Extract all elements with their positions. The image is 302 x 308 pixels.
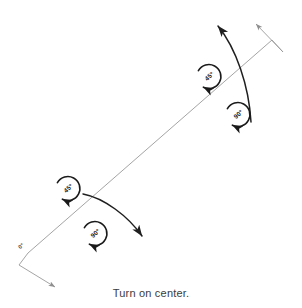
rotation-symbol-lower-outer: 45° [57,177,79,201]
diagram-canvas: 45° 90° 45° 90° 0° [0,0,302,308]
axis-start-label: 0° [17,242,25,250]
turn-on-center-diagram: 45° 90° 45° 90° 0° Turn on center. [0,0,302,308]
rotation-label-lower-outer: 45° [62,182,74,194]
figure-caption: Turn on center. [0,286,302,300]
turn-arrow-upper [218,26,251,122]
turn-arrow-lower [83,194,142,236]
rotation-label-upper-outer: 45° [203,70,215,82]
rotation-symbol-lower-inner: 90° [84,222,106,246]
rotation-symbol-upper-inner: 90° [227,103,249,127]
rotation-symbol-upper-outer: 45° [198,65,220,89]
rotation-label-lower-inner: 90° [89,227,101,239]
center-axis-group [19,24,283,287]
axis-end-lower [19,253,55,287]
axis-end-upper [256,24,283,52]
rotation-label-upper-inner: 90° [232,108,244,120]
curved-turn-arrows [83,26,251,236]
center-axis-line [28,40,272,253]
